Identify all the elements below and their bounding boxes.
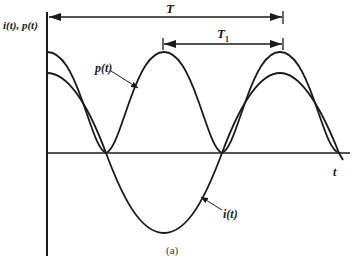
period-T1-subscript: 1 <box>225 35 229 44</box>
period-T1-main: T <box>217 26 225 41</box>
x-axis-label: t <box>333 166 336 178</box>
curve-p <box>47 52 339 153</box>
waveform-diagram <box>0 0 354 270</box>
p-label-leader <box>111 71 138 88</box>
curve-p-label: p(t) <box>95 62 112 74</box>
y-axis-label: i(t), p(t) <box>3 20 38 31</box>
curve-i-label: i(t) <box>223 208 238 220</box>
subfigure-label: (a) <box>166 245 178 256</box>
period-T1-label: T1 <box>217 27 229 44</box>
i-label-leader <box>201 197 222 210</box>
period-T-label: T <box>166 2 174 15</box>
